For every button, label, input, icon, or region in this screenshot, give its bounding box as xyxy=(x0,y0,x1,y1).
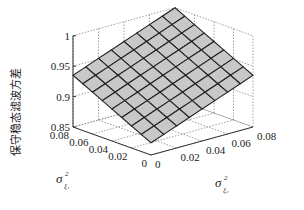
y-tick-label: 0.08 xyxy=(50,129,70,141)
x-tick-label: 0.06 xyxy=(232,137,252,149)
x-axis-label-sup: 2 xyxy=(224,174,228,182)
z-tick-label: 0.9 xyxy=(56,91,70,103)
x-tick-label: 0.02 xyxy=(181,151,200,163)
y-tick-label: 0.02 xyxy=(108,150,127,162)
x-axis-label: σ 2 ξ₂ xyxy=(215,174,229,194)
x-tick-label: 0.04 xyxy=(206,144,226,156)
z-axis-label: 保守稳态滤波方差 xyxy=(9,68,23,156)
x-axis-label-symbol: σ xyxy=(215,175,222,190)
z-tick-label: 0.95 xyxy=(51,60,71,72)
y-axis-label-sup: 2 xyxy=(65,170,69,178)
y-axis-label: σ 2 ξ₁ xyxy=(56,170,69,190)
y-axis-label-symbol: σ xyxy=(56,171,63,186)
surface-chart: 0.850.90.95100.020.040.060.0800.020.040.… xyxy=(0,0,304,210)
x-tick-label: 0.08 xyxy=(257,130,277,142)
z-tick-label: 1 xyxy=(65,30,71,42)
y-axis-label-sub: ξ₁ xyxy=(64,182,69,190)
y-tick-label: 0 xyxy=(142,157,148,169)
x-tick-label: 0 xyxy=(155,158,161,170)
y-tick-label: 0.04 xyxy=(89,143,109,155)
y-tick-label: 0.06 xyxy=(69,136,89,148)
x-axis-label-sub: ξ₂ xyxy=(223,186,229,194)
